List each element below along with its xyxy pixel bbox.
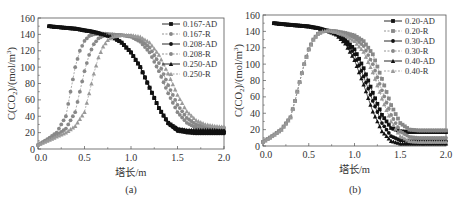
legend-label: 0.167-AD	[183, 19, 217, 29]
legend-label: 0.20-AD	[405, 16, 435, 26]
legend-label: 0.40-AD	[405, 56, 435, 66]
triangle-marker-icon	[373, 114, 377, 118]
circle-marker-icon	[362, 44, 366, 48]
circle-marker-icon	[80, 44, 84, 48]
figure: 0204060801001201401600.00.51.01.52.0塔长/m…	[0, 0, 459, 199]
triangle-marker-icon	[380, 129, 384, 133]
y-tick-label: 160	[20, 13, 35, 24]
circle-marker-icon	[169, 32, 173, 36]
circle-marker-icon	[371, 62, 375, 66]
circle-marker-icon	[73, 65, 77, 69]
x-tick-label: 1.5	[171, 152, 184, 163]
x-tick-label: 0.0	[260, 149, 273, 160]
circle-marker-icon	[159, 67, 163, 71]
circle-marker-icon	[169, 96, 173, 100]
circle-marker-icon	[385, 128, 389, 132]
circle-marker-icon	[164, 78, 168, 82]
triangle-marker-icon	[89, 81, 93, 85]
circle-marker-icon	[371, 99, 375, 103]
y-tick-label: 60	[25, 94, 35, 105]
legend-label: 0.40-R	[405, 66, 429, 76]
circle-marker-icon	[169, 52, 173, 56]
legend-item: 0.30-R	[384, 46, 429, 56]
triangle-marker-icon	[94, 63, 98, 67]
y-tick-label: 40	[25, 111, 35, 122]
circle-marker-icon	[66, 102, 70, 106]
triangle-marker-icon	[182, 105, 186, 109]
circle-marker-icon	[369, 58, 373, 62]
x-tick-label: 1.5	[394, 149, 407, 160]
y-tick-label: 120	[20, 45, 35, 56]
panel-caption: (b)	[349, 184, 362, 196]
y-tick-label: 100	[245, 59, 260, 70]
legend-item: 0.250-R	[162, 69, 211, 79]
circle-marker-icon	[71, 78, 75, 82]
circle-marker-icon	[166, 83, 170, 87]
circle-marker-icon	[375, 110, 379, 114]
circle-marker-icon	[57, 127, 61, 131]
square-marker-icon	[382, 116, 386, 120]
legend-label: 0.208-AD	[183, 39, 217, 49]
legend-label: 0.250-R	[183, 69, 211, 79]
circle-marker-icon	[76, 100, 80, 104]
triangle-marker-icon	[375, 119, 379, 123]
triangle-marker-icon	[173, 87, 177, 91]
triangle-marker-icon	[159, 57, 163, 61]
legend-label: 0.30-AD	[405, 36, 435, 46]
square-marker-icon	[394, 112, 398, 116]
legend-item: 0.40-R	[384, 66, 429, 76]
legend-item: 0.30-AD	[384, 36, 435, 46]
legend-label: 0.250-AD	[183, 59, 217, 69]
circle-marker-icon	[171, 93, 175, 97]
triangle-marker-icon	[175, 93, 179, 97]
triangle-marker-icon	[82, 110, 86, 114]
circle-marker-icon	[166, 91, 170, 95]
circle-marker-icon	[366, 53, 370, 57]
y-axis-title: C(CO2)/(mol/m3)	[5, 47, 19, 120]
x-tick-label: 1.0	[348, 149, 361, 160]
y-tick-label: 40	[250, 108, 260, 119]
square-marker-icon	[373, 59, 377, 63]
square-marker-icon	[387, 97, 391, 101]
legend-item: 0.40-AD	[384, 56, 435, 66]
circle-marker-icon	[378, 116, 382, 120]
x-tick-label: 2.0	[218, 152, 231, 163]
square-marker-icon	[385, 90, 389, 94]
circle-marker-icon	[178, 106, 182, 110]
square-marker-icon	[391, 19, 395, 23]
square-marker-icon	[389, 103, 393, 107]
y-tick-label: 140	[245, 26, 260, 37]
circle-marker-icon	[157, 61, 161, 65]
legend-label: 0.20-R	[405, 26, 429, 36]
square-marker-icon	[385, 120, 389, 124]
circle-marker-icon	[80, 80, 84, 84]
circle-marker-icon	[76, 57, 80, 61]
circle-marker-icon	[169, 88, 173, 92]
triangle-marker-icon	[92, 71, 96, 75]
circle-marker-icon	[391, 117, 395, 121]
legend-label: 0.208-R	[183, 49, 211, 59]
square-marker-icon	[371, 52, 375, 56]
circle-marker-icon	[64, 114, 68, 118]
circle-marker-icon	[83, 69, 87, 73]
x-tick-label: 2.0	[440, 149, 453, 160]
legend-item: 0.208-R	[162, 49, 211, 59]
x-tick-label: 0.5	[78, 152, 91, 163]
y-tick-label: 120	[245, 42, 260, 53]
legend-item: 0.167-R	[162, 29, 211, 39]
square-marker-icon	[169, 22, 173, 26]
chart-panel-a: 0204060801001201401600.00.51.01.52.0塔长/m…	[5, 13, 230, 197]
circle-marker-icon	[180, 109, 184, 113]
circle-marker-icon	[364, 81, 368, 85]
circle-marker-icon	[380, 121, 384, 125]
y-tick-label: 20	[250, 124, 260, 135]
circle-marker-icon	[66, 123, 70, 127]
legend-item: 0.250-AD	[162, 59, 217, 69]
y-tick-label: 80	[250, 75, 260, 86]
square-marker-icon	[382, 84, 386, 88]
triangle-marker-icon	[168, 77, 172, 81]
circle-marker-icon	[444, 136, 448, 140]
y-tick-label: 20	[25, 127, 35, 138]
y-tick-label: 140	[20, 29, 35, 40]
charts-canvas: 0204060801001201401600.00.51.01.52.0塔长/m…	[0, 0, 459, 199]
